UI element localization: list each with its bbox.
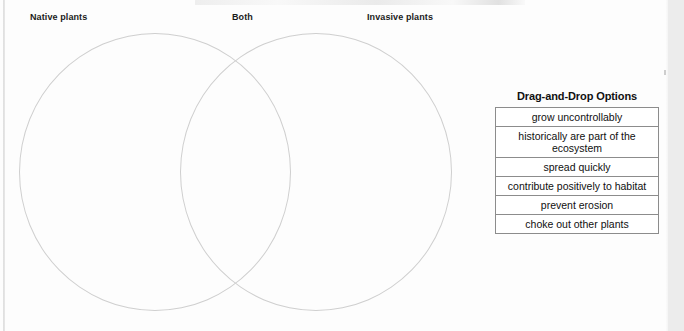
venn-label-both: Both bbox=[232, 12, 253, 22]
drag-and-drop-options-panel: Drag-and-Drop Options grow uncontrollabl… bbox=[495, 90, 659, 234]
scan-speck-artifact bbox=[664, 70, 666, 75]
option-item[interactable]: historically are part of the ecosystem bbox=[496, 127, 658, 158]
venn-circle-invasive-plants[interactable] bbox=[180, 33, 452, 311]
option-item[interactable]: grow uncontrollably bbox=[496, 108, 658, 127]
worksheet-canvas: Native plants Both Invasive plants Drag-… bbox=[0, 0, 684, 331]
venn-label-invasive-plants: Invasive plants bbox=[367, 12, 433, 22]
options-panel-title: Drag-and-Drop Options bbox=[495, 90, 659, 102]
venn-label-native-plants: Native plants bbox=[30, 12, 87, 22]
option-item[interactable]: prevent erosion bbox=[496, 196, 658, 215]
option-item[interactable]: contribute positively to habitat bbox=[496, 177, 658, 196]
option-item[interactable]: choke out other plants bbox=[496, 215, 658, 234]
page-right-gutter bbox=[668, 0, 684, 331]
option-item[interactable]: spread quickly bbox=[496, 158, 658, 177]
venn-diagram: Native plants Both Invasive plants bbox=[0, 0, 470, 331]
options-list: grow uncontrollably historically are par… bbox=[495, 107, 659, 234]
